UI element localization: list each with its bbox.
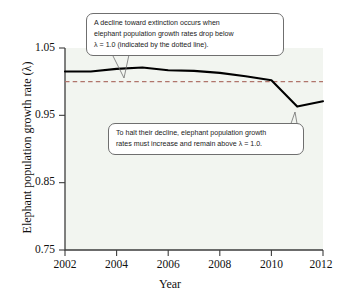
decline-callout: A decline toward extinction occurs when …	[86, 13, 284, 56]
x-axis-tick-marks	[65, 250, 323, 256]
x-tick-label-2006: 2006	[148, 258, 188, 270]
x-tick-label-2010: 2010	[251, 258, 291, 270]
decline-callout-line-1: A decline toward extinction occurs when	[94, 18, 277, 29]
x-tick-label-2002: 2002	[45, 258, 85, 270]
halt-callout-line-2: rates must increase and remain above λ =…	[116, 139, 297, 150]
x-tick-label-2004: 2004	[97, 258, 137, 270]
x-axis-title: Year	[0, 277, 340, 292]
y-axis-title: Elephant population growth rate (λ)	[20, 33, 35, 263]
halt-callout-line-1: To halt their decline, elephant populati…	[116, 128, 297, 139]
halt-callout: To halt their decline, elephant populati…	[108, 123, 304, 155]
decline-callout-line-3: λ = 1.0 (indicated by the dotted line).	[94, 40, 277, 51]
x-tick-label-2008: 2008	[200, 258, 240, 270]
figure-container: #plot-bg { fill: #f2f5f0; } #axis-lines …	[0, 0, 340, 301]
x-tick-label-2012: 2012	[301, 258, 340, 270]
y-axis-tick-marks	[59, 48, 65, 250]
decline-callout-line-2: elephant population growth rates drop be…	[94, 29, 277, 40]
